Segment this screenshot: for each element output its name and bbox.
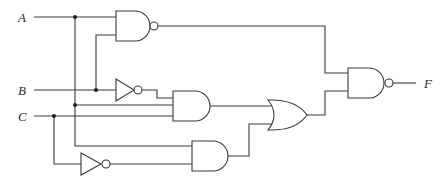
input-label-b: B [18,83,26,98]
input-label-c: C [18,109,27,124]
wire-c [34,114,173,164]
and-gate-3 [192,124,271,171]
nand-gate-output [348,68,416,98]
nand-gate-1 [116,11,348,73]
and-gate-2 [173,91,271,121]
logic-circuit-diagram: A B C F [0,0,448,188]
input-label-a: A [17,10,26,25]
or-gate [268,91,348,130]
not-gate-b [116,79,173,101]
output-label-f: F [423,76,433,91]
not-gate-c [81,153,192,175]
